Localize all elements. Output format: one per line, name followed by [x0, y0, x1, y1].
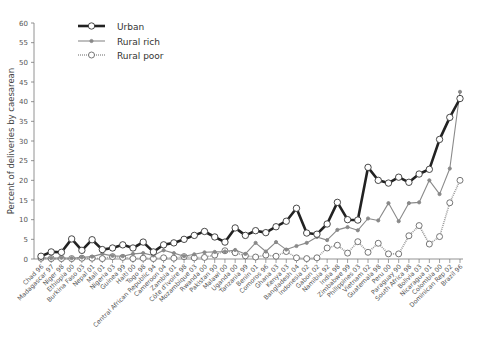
data-point — [428, 179, 431, 182]
legend-label: Rural poor — [117, 51, 164, 61]
data-point — [324, 245, 330, 251]
data-point — [397, 220, 400, 223]
data-point — [79, 247, 85, 253]
data-point — [314, 255, 320, 261]
data-point — [263, 229, 269, 235]
data-point — [375, 240, 381, 246]
y-tick-label: 55 — [19, 39, 28, 47]
data-point — [232, 225, 238, 231]
legend-item-urban: Urban — [78, 22, 144, 32]
data-point — [150, 249, 156, 255]
data-point — [273, 253, 279, 259]
y-axis-title: Percent of deliveries by caesarean — [6, 68, 16, 214]
data-point — [181, 236, 187, 242]
data-point — [70, 257, 73, 260]
data-point — [305, 241, 308, 244]
plot-area — [38, 90, 463, 261]
data-point — [314, 231, 320, 237]
y-tick-label: 50 — [19, 59, 28, 67]
data-point — [161, 255, 167, 261]
data-point — [426, 166, 432, 172]
data-point — [336, 228, 339, 231]
legend-item-rural-poor: Rural poor — [78, 51, 164, 61]
y-tick-label: 0 — [24, 256, 28, 264]
data-point — [212, 234, 218, 240]
y-tick-label: 35 — [19, 118, 28, 126]
data-point — [355, 217, 361, 223]
data-point — [274, 240, 277, 243]
data-point — [142, 252, 145, 255]
data-point — [375, 177, 381, 183]
data-point — [182, 255, 185, 258]
data-point — [326, 239, 329, 242]
data-point — [89, 237, 95, 243]
data-point — [447, 114, 453, 120]
data-point — [121, 255, 124, 258]
data-point — [172, 252, 175, 255]
data-point — [203, 251, 206, 254]
data-point — [99, 246, 105, 252]
legend-marker — [90, 39, 93, 42]
legend-marker — [88, 23, 94, 29]
legend-label: Rural rich — [117, 37, 160, 47]
data-point — [365, 164, 371, 170]
data-point — [447, 200, 453, 206]
y-tick-label: 15 — [19, 197, 28, 205]
y-tick-label: 30 — [19, 138, 28, 146]
data-point — [171, 255, 177, 261]
data-point — [426, 241, 432, 247]
y-tick-label: 5 — [24, 236, 28, 244]
data-point — [436, 136, 442, 142]
data-point — [111, 254, 114, 257]
data-point — [191, 232, 197, 238]
data-point — [324, 221, 330, 227]
data-point — [406, 179, 412, 185]
data-point — [387, 202, 390, 205]
data-point — [201, 228, 207, 234]
data-point — [273, 224, 279, 230]
data-point — [437, 234, 443, 240]
data-point — [244, 252, 247, 255]
data-point — [68, 236, 74, 242]
line-chart: 051015202530354045505560 Chad 96Madagasc… — [0, 0, 483, 347]
data-point — [295, 244, 298, 247]
data-point — [222, 239, 228, 245]
data-point — [38, 253, 44, 259]
data-point — [304, 230, 310, 236]
data-point — [131, 252, 134, 255]
data-point — [457, 177, 463, 183]
data-point — [80, 256, 83, 259]
data-point — [120, 242, 126, 248]
data-point — [385, 180, 391, 186]
legend-label: Urban — [117, 22, 144, 32]
data-point — [140, 255, 146, 261]
data-point — [264, 250, 267, 253]
data-point — [416, 171, 422, 177]
data-point — [234, 248, 237, 251]
y-axis: 051015202530354045505560 — [19, 20, 34, 264]
data-point — [285, 248, 288, 251]
data-point — [366, 217, 369, 220]
data-point — [356, 229, 359, 232]
data-point — [90, 255, 93, 258]
y-tick-label: 10 — [19, 216, 28, 224]
data-point — [162, 249, 165, 252]
y-tick-label: 60 — [19, 20, 28, 28]
data-point — [355, 239, 361, 245]
data-point — [242, 232, 248, 238]
data-point — [213, 250, 216, 253]
data-point — [130, 245, 136, 251]
data-point — [407, 202, 410, 205]
data-point — [344, 216, 350, 222]
data-point — [334, 242, 340, 248]
data-point — [193, 253, 196, 256]
data-point — [252, 227, 258, 233]
data-point — [171, 240, 177, 246]
x-axis: Chad 96Madagascar 97Niger 98Ethiopia 00B… — [16, 259, 464, 329]
data-point — [160, 242, 166, 248]
data-point — [109, 245, 115, 251]
data-point — [304, 256, 310, 262]
data-point — [395, 174, 401, 180]
data-point — [365, 249, 371, 255]
data-point — [448, 167, 451, 170]
